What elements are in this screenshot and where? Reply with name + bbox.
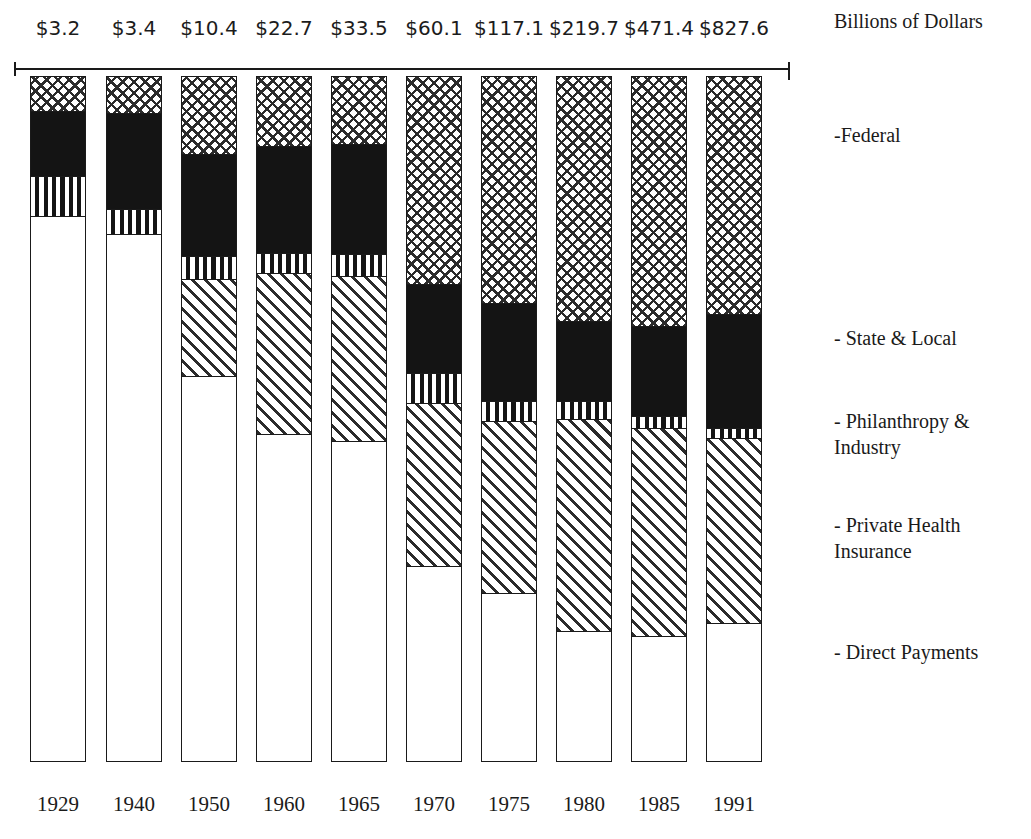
bar-segment-direct-payments bbox=[407, 566, 461, 762]
segment-divider bbox=[107, 234, 161, 235]
bar-segment-federal bbox=[31, 77, 85, 111]
bar-segment-state-and-local bbox=[257, 146, 311, 253]
segment-divider bbox=[632, 326, 686, 327]
bar-segment-private-health-insurance bbox=[407, 403, 461, 566]
segment-divider bbox=[182, 376, 236, 377]
segment-divider bbox=[707, 438, 761, 439]
segment-divider bbox=[257, 434, 311, 435]
bar-segment-state-and-local bbox=[107, 113, 161, 209]
legend-item-private-health: - Private Health Insurance bbox=[834, 512, 961, 564]
bar-segment-philanthropy-and-industry bbox=[482, 401, 536, 421]
segment-divider bbox=[182, 256, 236, 257]
bar-segment-private-health-insurance bbox=[182, 279, 236, 376]
segment-divider bbox=[407, 566, 461, 567]
top-axis-line bbox=[14, 68, 790, 70]
segment-divider bbox=[182, 279, 236, 280]
bar-segment-federal bbox=[257, 77, 311, 146]
bar-segment-state-and-local bbox=[31, 111, 85, 176]
segment-divider bbox=[557, 419, 611, 420]
segment-divider bbox=[632, 428, 686, 429]
segment-divider bbox=[557, 321, 611, 322]
bar-1991 bbox=[706, 76, 762, 762]
segment-divider bbox=[332, 276, 386, 277]
segment-divider bbox=[332, 441, 386, 442]
segment-divider bbox=[482, 593, 536, 594]
segment-divider bbox=[31, 216, 85, 217]
bar-1985 bbox=[631, 76, 687, 762]
segment-divider bbox=[332, 144, 386, 145]
segment-divider bbox=[482, 303, 536, 304]
bar-segment-state-and-local bbox=[632, 326, 686, 416]
bar-segment-state-and-local bbox=[557, 321, 611, 401]
bar-1929 bbox=[30, 76, 86, 762]
bar-segment-state-and-local bbox=[332, 144, 386, 254]
segment-divider bbox=[107, 113, 161, 114]
bar-segment-private-health-insurance bbox=[632, 428, 686, 636]
segment-divider bbox=[707, 314, 761, 315]
bar-1975 bbox=[481, 76, 537, 762]
segment-divider bbox=[407, 403, 461, 404]
legend-item-federal: -Federal bbox=[834, 122, 901, 148]
bar-1960 bbox=[256, 76, 312, 762]
bar-segment-federal bbox=[407, 77, 461, 284]
segment-divider bbox=[557, 631, 611, 632]
bar-segment-private-health-insurance bbox=[707, 438, 761, 623]
segment-divider bbox=[257, 146, 311, 147]
units-caption: Billions of Dollars bbox=[834, 10, 983, 33]
bar-segment-state-and-local bbox=[407, 284, 461, 373]
segment-divider bbox=[31, 111, 85, 112]
bar-segment-federal bbox=[632, 77, 686, 326]
axis-tick-right bbox=[788, 62, 790, 80]
bar-segment-philanthropy-and-industry bbox=[632, 416, 686, 428]
bar-segment-philanthropy-and-industry bbox=[182, 256, 236, 279]
year-label-1929: 1929 bbox=[14, 790, 102, 818]
segment-divider bbox=[31, 176, 85, 177]
legend-item-direct-payments: - Direct Payments bbox=[834, 639, 978, 665]
segment-divider bbox=[182, 154, 236, 155]
segment-divider bbox=[632, 636, 686, 637]
bar-segment-direct-payments bbox=[707, 623, 761, 762]
bar-segment-federal bbox=[107, 77, 161, 113]
bar-segment-direct-payments bbox=[257, 434, 311, 762]
bar-segment-direct-payments bbox=[182, 376, 236, 762]
bar-segment-federal bbox=[182, 77, 236, 154]
segment-divider bbox=[407, 373, 461, 374]
bar-segment-philanthropy-and-industry bbox=[31, 176, 85, 216]
year-label-1991: 1991 bbox=[690, 790, 778, 818]
bar-segment-federal bbox=[557, 77, 611, 321]
bar-segment-private-health-insurance bbox=[557, 419, 611, 631]
bar-segment-direct-payments bbox=[557, 631, 611, 762]
segment-divider bbox=[257, 253, 311, 254]
bar-1950 bbox=[181, 76, 237, 762]
bar-segment-philanthropy-and-industry bbox=[332, 254, 386, 276]
bar-segment-philanthropy-and-industry bbox=[707, 428, 761, 438]
bar-segment-philanthropy-and-industry bbox=[407, 373, 461, 403]
bar-1980 bbox=[556, 76, 612, 762]
bar-segment-federal bbox=[482, 77, 536, 303]
bar-segment-federal bbox=[707, 77, 761, 314]
bar-segment-direct-payments bbox=[332, 441, 386, 762]
bar-segment-private-health-insurance bbox=[257, 273, 311, 434]
bar-segment-private-health-insurance bbox=[482, 421, 536, 593]
stacked-bar-chart: $3.2$3.4$10.4$22.7$33.5$60.1$117.1$219.7… bbox=[0, 0, 1031, 839]
bar-segment-private-health-insurance bbox=[332, 276, 386, 441]
segment-divider bbox=[257, 273, 311, 274]
legend-item-state-local: - State & Local bbox=[834, 325, 957, 351]
bar-segment-state-and-local bbox=[182, 154, 236, 256]
segment-divider bbox=[107, 209, 161, 210]
bar-1965 bbox=[331, 76, 387, 762]
bar-segment-federal bbox=[332, 77, 386, 144]
axis-tick-left bbox=[14, 62, 16, 76]
bar-segment-state-and-local bbox=[707, 314, 761, 428]
bar-segment-direct-payments bbox=[632, 636, 686, 762]
segment-divider bbox=[707, 428, 761, 429]
segment-divider bbox=[332, 254, 386, 255]
bar-segment-state-and-local bbox=[482, 303, 536, 401]
bar-segment-direct-payments bbox=[107, 234, 161, 762]
bar-segment-direct-payments bbox=[482, 593, 536, 762]
segment-divider bbox=[407, 284, 461, 285]
segment-divider bbox=[482, 401, 536, 402]
legend-item-philanthropy: - Philanthropy & Industry bbox=[834, 408, 970, 460]
bar-segment-direct-payments bbox=[31, 216, 85, 762]
segment-divider bbox=[707, 623, 761, 624]
